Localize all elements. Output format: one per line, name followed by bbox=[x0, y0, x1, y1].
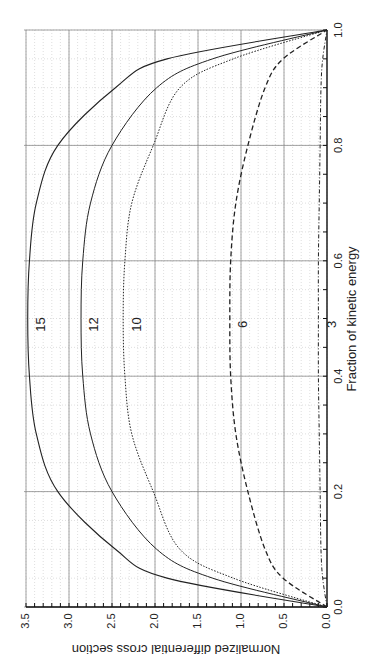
y-tick-label: 2.5 bbox=[105, 613, 117, 628]
x-tick-label: 0.0 bbox=[332, 599, 344, 614]
y-tick-label: 3.0 bbox=[62, 613, 74, 628]
axes: 0.00.20.40.60.81.00.00.51.01.52.02.53.03… bbox=[19, 22, 344, 628]
y-tick-label: 0.5 bbox=[277, 613, 289, 628]
x-tick-label: 0.4 bbox=[332, 369, 344, 384]
x-tick-label: 0.6 bbox=[332, 253, 344, 268]
x-tick-label: 0.2 bbox=[332, 484, 344, 499]
curve-label-6: 6 bbox=[235, 321, 250, 328]
y-tick-label: 0.0 bbox=[320, 613, 332, 628]
y-tick-label: 2.0 bbox=[148, 613, 160, 628]
minor-grid bbox=[26, 30, 327, 607]
curve-15 bbox=[28, 30, 327, 607]
x-tick-label: 0.8 bbox=[332, 138, 344, 153]
y-tick-label: 1.0 bbox=[234, 613, 246, 628]
curve-label-10: 10 bbox=[129, 317, 144, 331]
y-tick-label: 1.5 bbox=[191, 613, 203, 628]
curve-label-15: 15 bbox=[33, 317, 48, 331]
curve-label-3: 3 bbox=[324, 321, 339, 328]
y-axis-title: Normalized differential cross section bbox=[72, 642, 281, 657]
curve-label-12: 12 bbox=[86, 317, 101, 331]
y-tick-label: 3.5 bbox=[19, 613, 31, 628]
chart: 0.00.20.40.60.81.00.00.51.01.52.02.53.03… bbox=[0, 0, 379, 668]
x-axis-title: Fraction of kinetic energy bbox=[344, 246, 359, 392]
curves bbox=[28, 30, 327, 607]
x-tick-label: 1.0 bbox=[332, 22, 344, 37]
